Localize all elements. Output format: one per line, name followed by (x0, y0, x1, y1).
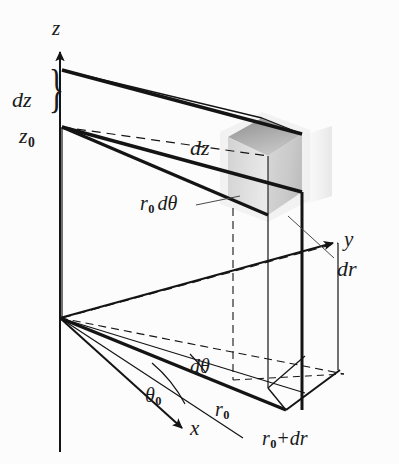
wedge-top-inner-edge (62, 70, 262, 118)
theta0-subscript: 0 (155, 394, 162, 408)
base-thick-radial-edge (60, 318, 286, 410)
z-axis-label: z (52, 18, 60, 39)
x-axis-label: x (190, 418, 199, 439)
dz-brace-glyph: } (49, 63, 64, 115)
wedge-top-outer-edge (62, 70, 302, 134)
r0dtheta-rest: dθ (154, 192, 177, 214)
dz-inner-label: dz (190, 137, 210, 159)
z0-label: z0 (19, 125, 35, 149)
r0plusdr-base: r (262, 427, 270, 449)
dr-leader (288, 216, 334, 258)
dr-label: dr (337, 258, 357, 280)
cube-halo (220, 112, 310, 222)
dz-brace-label: dz (12, 89, 32, 111)
r0plusdr-operator: + (276, 427, 289, 449)
r0-base: r (215, 398, 223, 420)
z0-base: z (19, 123, 28, 148)
axis-group (60, 52, 333, 452)
r0plusdr-rest: dr (290, 427, 308, 449)
base-front-edge-c (268, 356, 305, 388)
r0dtheta-base: r (140, 192, 148, 214)
y-axis-label: y (344, 229, 353, 250)
r0plusdr-label: r0+dr (262, 428, 307, 451)
r0dtheta-label: r0dθ (140, 193, 177, 216)
dtheta-label: dθ (190, 356, 210, 376)
r0-subscript: 0 (223, 408, 230, 422)
z0-subscript: 0 (28, 135, 35, 150)
theta0-label: θ0 (145, 385, 161, 408)
y-axis (60, 243, 333, 318)
theta0-base: θ (145, 384, 155, 406)
x-axis (60, 318, 182, 428)
r0-label: r0 (215, 399, 229, 422)
